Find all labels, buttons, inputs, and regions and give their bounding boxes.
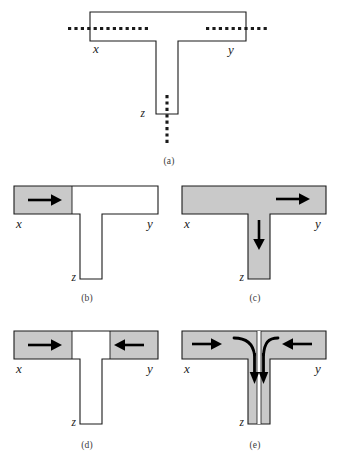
panel-d-diagram: x y z — [6, 325, 168, 437]
panel-caption-b: (b) — [58, 293, 116, 303]
panel-caption-d: (d) — [58, 440, 116, 450]
panel-caption-c: (c) — [226, 293, 284, 303]
node-label-y-a: y — [226, 42, 234, 57]
node-label-x-e: x — [183, 361, 190, 376]
node-label-z-c: z — [239, 271, 245, 283]
stem-split-white-gap-e — [257, 331, 261, 424]
panel-c-diagram: x y z — [174, 180, 336, 290]
node-label-y-e: y — [313, 361, 321, 376]
node-label-y-d: y — [145, 361, 153, 376]
node-label-z-b: z — [71, 271, 77, 283]
panel-caption-e: (e) — [226, 440, 284, 450]
node-label-z-d: z — [71, 416, 77, 428]
panel-a-diagram: x y z — [0, 0, 338, 150]
node-label-z-a: z — [140, 107, 146, 119]
node-label-x-a: x — [92, 41, 99, 56]
node-label-y-c: y — [313, 216, 321, 231]
panel-caption-a: (a) — [140, 156, 198, 166]
node-label-x-d: x — [15, 361, 22, 376]
node-label-z-e: z — [239, 416, 245, 428]
figure-root: x y z (a) x y z (b) x — [0, 0, 338, 469]
node-label-x-c: x — [183, 216, 190, 231]
panel-e-diagram: x y z — [174, 325, 336, 437]
node-label-y-b: y — [145, 216, 153, 231]
panel-b-diagram: x y z — [6, 180, 168, 290]
node-label-x-b: x — [15, 216, 22, 231]
